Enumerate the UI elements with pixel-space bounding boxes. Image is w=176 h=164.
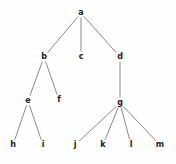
- tree-node-i: i: [42, 141, 45, 149]
- tree-node-l: l: [130, 141, 133, 149]
- tree-edge: [84, 17, 116, 53]
- tree-node-c: c: [79, 53, 84, 61]
- tree-edge: [15, 106, 26, 140]
- tree-node-j: j: [74, 141, 77, 149]
- tree-edge: [48, 17, 78, 53]
- tree-edge: [30, 106, 41, 140]
- tree-node-m: m: [156, 141, 164, 149]
- tree-edge: [30, 62, 42, 96]
- tree-diagram: abcdefghijklm: [0, 0, 176, 164]
- tree-edge: [105, 108, 118, 140]
- tree-node-e: e: [25, 97, 30, 105]
- tree-node-g: g: [117, 99, 123, 107]
- tree-node-b: b: [41, 53, 47, 61]
- tree-edge: [46, 62, 57, 95]
- tree-node-f: f: [57, 96, 60, 104]
- tree-edge: [79, 106, 116, 141]
- tree-edge-layer: [0, 0, 176, 164]
- tree-node-h: h: [10, 141, 16, 149]
- tree-edge: [121, 108, 129, 139]
- tree-node-d: d: [117, 53, 123, 61]
- tree-node-k: k: [100, 141, 105, 149]
- tree-node-a: a: [78, 9, 83, 17]
